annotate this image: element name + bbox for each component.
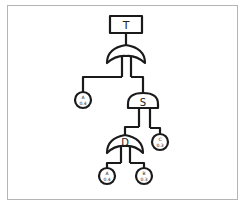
- event-a1-prob: 0.4: [79, 101, 86, 106]
- event-b-name: B: [142, 171, 145, 176]
- gate-s-label: S: [140, 97, 146, 108]
- event-c-prob: 0.3: [156, 143, 163, 148]
- top-event-label: T: [122, 19, 130, 32]
- gate-d-label: D: [121, 137, 129, 148]
- event-a2-prob: 0.4: [103, 177, 110, 182]
- or-gate-top[interactable]: [107, 45, 145, 63]
- fault-tree-diagram: T S D A 0.4 C 0.3 A 0.4 B 0.3: [0, 0, 244, 207]
- event-c-name: C: [158, 137, 161, 142]
- event-b-prob: 0.3: [140, 177, 147, 182]
